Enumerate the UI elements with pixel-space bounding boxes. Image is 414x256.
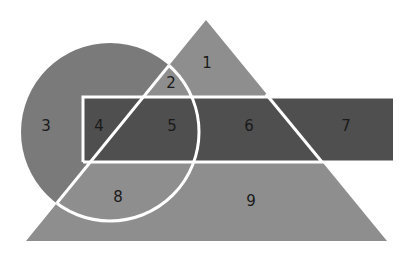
region-label-4: 4 — [94, 117, 104, 135]
region-label-5: 5 — [167, 117, 177, 135]
region-label-8: 8 — [113, 188, 123, 206]
region-label-7: 7 — [341, 117, 351, 135]
region-label-2: 2 — [166, 74, 176, 92]
region-label-1: 1 — [202, 54, 212, 72]
region-label-9: 9 — [246, 192, 256, 210]
region-label-6: 6 — [244, 117, 254, 135]
venn-shapes-diagram: 1 2 3 4 5 6 7 8 9 — [0, 0, 414, 256]
region-label-3: 3 — [41, 117, 51, 135]
